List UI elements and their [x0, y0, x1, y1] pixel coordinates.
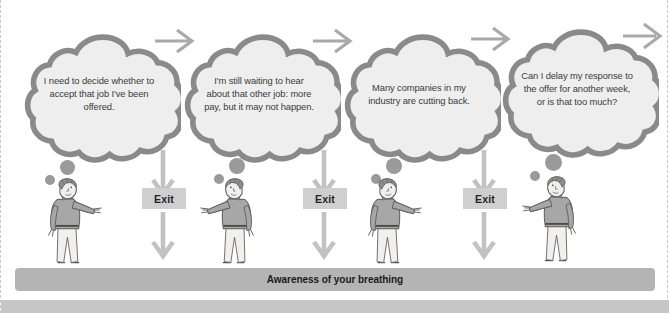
- thought-text-1: I need to decide whether to accept that …: [43, 74, 155, 114]
- awareness-bar-label: Awareness of your breathing: [267, 274, 403, 285]
- thought-dot-large-4: [545, 154, 562, 171]
- cropped-caption-text: [1, 0, 669, 9]
- thought-text-3: Many companies in my industry are cuttin…: [363, 81, 475, 107]
- page-footer-bar: [1, 300, 669, 313]
- exit-box-3[interactable]: Exit: [463, 188, 507, 209]
- exit-box-2[interactable]: Exit: [303, 188, 347, 209]
- thought-text-2: I'm still waiting to hear about that oth…: [203, 74, 315, 114]
- person-figure-1: [43, 178, 105, 270]
- exit-arrow-down-lower-2: [312, 212, 338, 262]
- person-figure-2: [197, 178, 259, 270]
- exit-arrow-down-lower-3: [472, 212, 498, 262]
- awareness-of-breathing-bar: Awareness of your breathing: [15, 268, 655, 291]
- exit-arrow-down-lower-1: [151, 212, 177, 262]
- exit-box-1[interactable]: Exit: [142, 188, 186, 209]
- thought-cloud-3: Many companies in my industry are cuttin…: [343, 24, 495, 164]
- thought-dot-large-1: [60, 160, 75, 175]
- thought-cloud-1: I need to decide whether to accept that …: [23, 24, 175, 164]
- thought-text-4: Can I delay my response to the offer for…: [521, 69, 633, 109]
- thought-cloud-4: Can I delay my response to the offer for…: [501, 19, 653, 159]
- thought-dot-large-3: [386, 158, 402, 174]
- thought-dot-large-2: [229, 158, 245, 174]
- person-figure-4: [519, 176, 581, 268]
- thought-cloud-2: I'm still waiting to hear about that oth…: [183, 24, 335, 164]
- person-figure-3: [363, 178, 425, 270]
